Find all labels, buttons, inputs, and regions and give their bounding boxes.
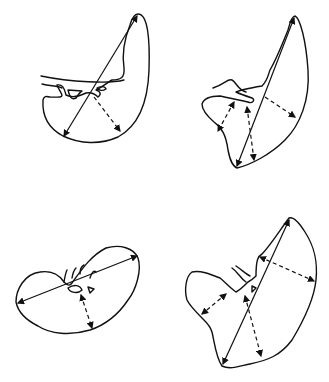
- spleen-bottom-left: [16, 246, 139, 333]
- spleen-top-left: [41, 14, 149, 143]
- spleen-bottom-right: [186, 218, 317, 368]
- diagram-canvas: Four spleen outline drawings with measur…: [0, 0, 329, 382]
- spleen-top-right: [202, 16, 308, 168]
